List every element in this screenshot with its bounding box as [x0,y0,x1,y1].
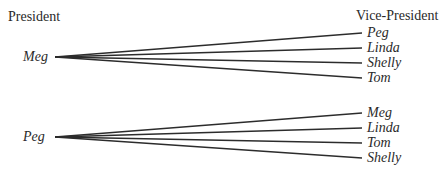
branch-meg-linda [55,48,362,57]
branch-meg-peg [55,33,362,57]
tree-1-leaf-label: Peg [367,26,389,40]
branch-peg-linda [55,128,362,137]
tree-1-leaf-label: Tom [367,71,391,85]
tree-2-leaf-label: Tom [367,136,391,150]
tree-2-leaf-label: Shelly [367,151,401,165]
tree-1-leaf-label: Linda [367,41,400,55]
tree-1-branches [55,33,362,78]
tree-2-root-label: Peg [23,130,45,144]
branch-peg-meg [55,113,362,137]
tree-1-leaf-label: Shelly [367,56,401,70]
tree-1-root-label: Meg [23,50,48,64]
tree-2-leaf-label: Linda [367,121,400,135]
tree-2-leaf-label: Meg [367,106,392,120]
tree-2-branches [55,113,362,158]
